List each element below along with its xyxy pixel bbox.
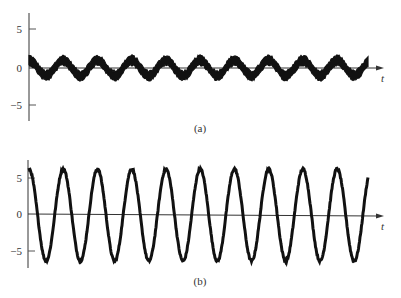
panel-b-tick-label-0: 0 xyxy=(17,208,23,220)
panel-b-tick-label-5: 5 xyxy=(17,172,23,184)
panel-b-x-axis-arrow-icon xyxy=(376,214,384,219)
panel-a-x-axis-arrow-icon xyxy=(376,66,384,71)
panel-a-tick-label-neg5: −5 xyxy=(10,99,22,111)
panel-a-t-label: t xyxy=(381,72,385,84)
panel-a-label: (a) xyxy=(194,122,207,135)
panel-a-tick-label-0: 0 xyxy=(17,62,23,74)
panel-b: 5 0 −5 t (b) xyxy=(10,160,385,288)
panel-b-tick-label-neg5: −5 xyxy=(10,245,22,257)
figure: 5 0 −5 t (a) 5 0 −5 t (b) xyxy=(0,0,401,298)
panel-b-t-label: t xyxy=(381,220,385,232)
panel-b-x-axis xyxy=(28,214,378,216)
panel-a-tick-label-5: 5 xyxy=(17,23,23,35)
panel-b-label: (b) xyxy=(194,275,207,288)
panel-a: 5 0 −5 t (a) xyxy=(10,13,385,135)
